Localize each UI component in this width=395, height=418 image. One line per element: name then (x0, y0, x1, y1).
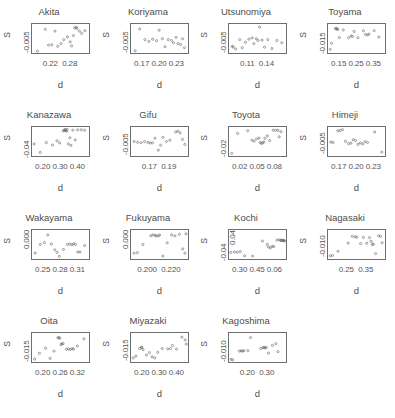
data-point (366, 141, 368, 143)
plot-frame (228, 126, 287, 157)
x-tick-label: 0.30 (52, 162, 67, 171)
data-point (151, 356, 153, 358)
data-point (78, 30, 80, 32)
data-point (51, 44, 53, 46)
panel-toyama: ToyamaS-0.0150.15 0.25 0.35d (296, 0, 394, 103)
data-point (147, 141, 149, 143)
data-point (45, 141, 47, 143)
data-point (47, 234, 49, 236)
data-point (255, 38, 257, 40)
panel-title: Kagoshima (197, 315, 295, 326)
x-axis-label: d (31, 285, 90, 296)
data-point (344, 140, 346, 142)
x-axis-label: d (228, 388, 287, 399)
plot-frame (130, 332, 189, 363)
data-point (172, 42, 174, 44)
plot-frame (130, 229, 189, 260)
scatter-points (131, 333, 188, 362)
data-point (69, 41, 71, 43)
data-point (184, 339, 186, 341)
data-point (66, 243, 68, 245)
x-tick-label: 0.28 (52, 265, 67, 274)
x-tick-label: 0.14 (259, 59, 274, 68)
data-point (362, 30, 364, 32)
data-point (261, 39, 263, 41)
data-point (164, 46, 166, 48)
x-tick-label: 0.15 (331, 59, 346, 68)
x-axis-label: d (228, 182, 287, 193)
panel-title: Akita (0, 6, 98, 17)
data-point (267, 352, 269, 354)
data-point (281, 42, 283, 44)
data-point (261, 240, 263, 242)
y-axis-label: S (101, 338, 111, 350)
data-point (239, 251, 241, 253)
y-axis-label: S (199, 29, 209, 41)
x-tick-labels: 0.22 0.28 (16, 59, 104, 68)
data-point (181, 38, 183, 40)
data-point (178, 233, 180, 235)
y-axis-label: S (2, 235, 12, 247)
data-point (77, 129, 79, 131)
data-point (84, 129, 86, 131)
panel-title: Utsunomiya (197, 6, 295, 17)
data-point (169, 139, 171, 141)
data-point (264, 137, 266, 139)
panel-fukuyama: FukuyamaS0.0000.200 0.220d (99, 206, 197, 309)
data-point (43, 242, 45, 244)
data-point (329, 255, 331, 257)
data-point (135, 355, 137, 357)
panel-himeji: HimejiS-0.0050.17 0.20 0.23d (296, 103, 394, 206)
y-tick-label: -0.005 (318, 132, 327, 153)
data-point (142, 348, 144, 350)
x-tick-label: 0.30 (232, 265, 247, 274)
x-axis-label: d (31, 79, 90, 90)
x-tick-label: 0.28 (62, 59, 77, 68)
y-axis-label: S (199, 235, 209, 247)
plot-frame (228, 23, 287, 54)
x-tick-labels: 0.15 0.25 0.35 (312, 59, 395, 68)
panel-grid: AkitaS-0.0050.22 0.28dKoriyamaS-0.0050.1… (0, 0, 395, 418)
data-point (152, 234, 154, 236)
y-tick-label: -0.005 (22, 32, 31, 53)
plot-frame (31, 229, 90, 260)
data-point (239, 39, 241, 41)
y-axis-label: S (101, 132, 111, 144)
data-point (273, 246, 275, 248)
data-point (175, 131, 177, 133)
data-point (167, 39, 169, 41)
scatter-points (131, 127, 188, 156)
data-point (134, 50, 136, 52)
data-point (148, 352, 150, 354)
x-axis-label: d (130, 388, 189, 399)
data-point (181, 138, 183, 140)
data-point (72, 129, 74, 131)
data-point (184, 252, 186, 254)
data-point (276, 39, 278, 41)
data-point (231, 152, 233, 154)
data-point (355, 139, 357, 141)
x-tick-labels: 0.17 0.19 (115, 162, 203, 171)
panel-title: Gifu (99, 109, 197, 120)
panel-title: Miyazaki (99, 315, 197, 326)
data-point (72, 35, 74, 37)
x-tick-label: 0.08 (267, 162, 282, 171)
x-tick-label: 0.30 (259, 368, 274, 377)
data-point (62, 248, 64, 250)
y-axis-label: S (199, 132, 209, 144)
x-tick-label: 0.35 (358, 265, 373, 274)
data-point (144, 39, 146, 41)
data-point (169, 348, 171, 350)
x-tick-label: 0.19 (161, 162, 176, 171)
data-point (329, 48, 331, 50)
y-tick-label: -0.02 (219, 139, 228, 156)
plot-frame (31, 126, 90, 157)
data-point (248, 38, 250, 40)
data-point (76, 345, 78, 347)
data-point (339, 129, 341, 131)
data-point (171, 234, 173, 236)
panel-koriyama: KoriyamaS-0.0050.17 0.20 0.23d (99, 0, 197, 103)
data-point (351, 235, 353, 237)
panel-kochi: KochiS-0.040.040.30 0.45 0.06d (197, 206, 295, 309)
scatter-points (229, 127, 286, 156)
